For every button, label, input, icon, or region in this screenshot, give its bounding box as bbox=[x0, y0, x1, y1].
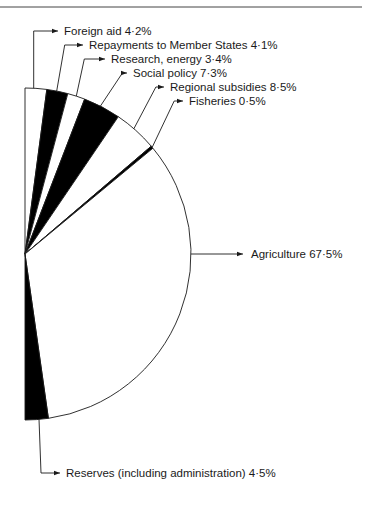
leader-line bbox=[100, 73, 127, 106]
slice-label: Regional subsidies 8·5% bbox=[170, 81, 297, 93]
slice-label: Reserves (including administration) 4·5% bbox=[66, 467, 276, 479]
arrowhead-icon bbox=[177, 99, 183, 103]
leader-line bbox=[39, 419, 60, 473]
arrowhead-icon bbox=[121, 71, 127, 75]
arrowhead-icon bbox=[99, 57, 105, 61]
slice-label: Fisheries 0·5% bbox=[189, 95, 266, 107]
leader-line bbox=[76, 59, 105, 96]
arrowhead-icon bbox=[52, 29, 58, 33]
arrowhead-icon bbox=[237, 252, 243, 256]
slice-label: Foreign aid 4·2% bbox=[64, 25, 152, 37]
leader-line bbox=[134, 87, 164, 129]
slice-label: Social policy 7·3% bbox=[133, 67, 227, 79]
arrowhead-icon bbox=[158, 85, 164, 89]
slice-label: Research, energy 3·4% bbox=[111, 53, 232, 65]
leader-line bbox=[152, 101, 183, 147]
arrowhead-icon bbox=[54, 471, 60, 475]
leader-line bbox=[34, 31, 58, 88]
slice-label: Repayments to Member States 4·1% bbox=[89, 39, 278, 51]
pie-slices bbox=[25, 88, 191, 420]
slice-label: Agriculture 67·5% bbox=[251, 248, 342, 260]
arrowhead-icon bbox=[77, 43, 83, 47]
budget-semicircle-pie-chart: Foreign aid 4·2%Repayments to Member Sta… bbox=[0, 0, 368, 512]
